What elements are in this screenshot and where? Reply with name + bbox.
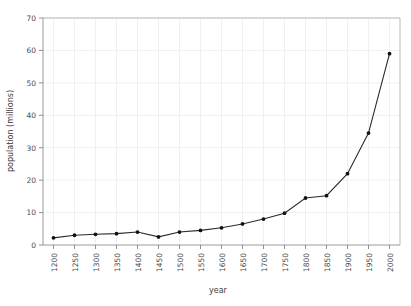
x-tick-label: 1700 <box>260 253 269 272</box>
data-point <box>262 217 266 221</box>
data-point <box>388 52 392 56</box>
data-point <box>157 235 161 239</box>
data-point <box>52 236 56 240</box>
y-tick-label: 10 <box>26 208 36 217</box>
data-point <box>94 232 98 236</box>
data-point <box>199 229 203 233</box>
data-point <box>220 226 224 230</box>
x-tick-label: 1850 <box>323 253 332 272</box>
data-point <box>283 211 287 215</box>
x-tick-label: 1600 <box>218 253 227 272</box>
x-tick-label: 1300 <box>92 253 101 272</box>
data-point <box>241 222 245 226</box>
x-tick-label: 1750 <box>281 253 290 272</box>
x-tick-label: 1950 <box>365 253 374 272</box>
y-tick-label: 0 <box>31 241 36 250</box>
x-tick-label: 1350 <box>113 253 122 272</box>
x-tick-label: 1400 <box>134 253 143 272</box>
y-tick-label: 60 <box>26 46 36 55</box>
data-point <box>346 172 350 176</box>
x-tick-label: 1500 <box>176 253 185 272</box>
y-tick-label: 40 <box>26 111 36 120</box>
x-tick-label: 1200 <box>50 253 59 272</box>
y-axis-title: population (millions) <box>6 90 15 172</box>
x-tick-label: 1450 <box>155 253 164 272</box>
y-tick-label: 30 <box>26 144 36 153</box>
data-point <box>136 230 140 234</box>
x-tick-label: 1800 <box>302 253 311 272</box>
data-point <box>367 131 371 135</box>
y-tick-label: 70 <box>26 14 36 23</box>
x-tick-label: 2000 <box>386 253 395 272</box>
x-tick-label: 1250 <box>71 253 80 272</box>
data-point <box>178 230 182 234</box>
x-axis-title: year <box>209 286 228 295</box>
population-line-chart: 010203040506070 120012501300135014001450… <box>0 0 411 306</box>
x-tick-label: 1550 <box>197 253 206 272</box>
y-tick-label: 20 <box>26 176 36 185</box>
chart-canvas: 010203040506070 120012501300135014001450… <box>0 0 411 306</box>
x-tick-label: 1900 <box>344 253 353 272</box>
x-tick-label: 1650 <box>239 253 248 272</box>
y-tick-label: 50 <box>26 79 36 88</box>
data-point <box>304 196 308 200</box>
data-point <box>73 233 77 237</box>
data-point <box>325 194 329 198</box>
data-point <box>115 232 119 236</box>
